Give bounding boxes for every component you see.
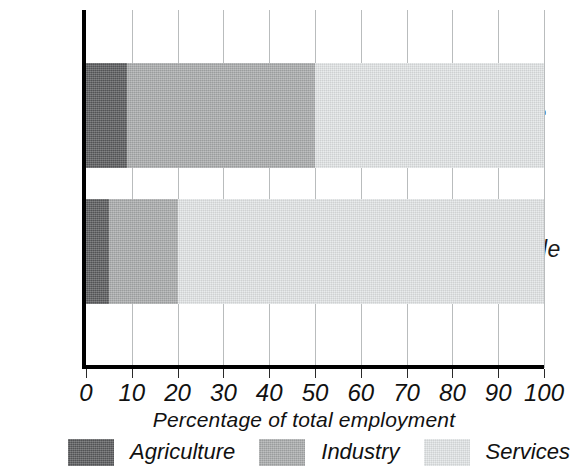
gridline: [544, 10, 545, 368]
legend-label: Services: [486, 439, 570, 465]
legend-label: Agriculture: [130, 439, 235, 465]
legend-swatch-services: [424, 439, 470, 466]
x-axis-tickmark: [498, 369, 499, 378]
x-axis-line: [82, 365, 544, 369]
y-axis-line: [82, 10, 86, 368]
legend-item: Agriculture: [68, 439, 235, 466]
x-axis-tickmark: [269, 369, 270, 378]
legend-swatch-industry: [259, 439, 305, 466]
legend-item: Industry: [259, 439, 399, 466]
bar-segment-services: [178, 199, 544, 304]
x-axis-tickmark: [315, 369, 316, 378]
bar-segment-services: [315, 63, 544, 168]
x-axis-tickmark: [452, 369, 453, 378]
x-axis-title: Percentage of total employment: [0, 408, 560, 432]
legend-item: Services: [424, 439, 570, 466]
x-axis-tickmark: [223, 369, 224, 378]
plot-area: [86, 10, 544, 368]
legend-swatch-agriculture: [68, 439, 114, 466]
bar-segment-industry: [109, 199, 178, 304]
x-axis-tickmark: [544, 369, 545, 378]
bar-segment-industry: [127, 63, 315, 168]
chart-legend: AgricultureIndustryServices: [0, 436, 560, 468]
x-axis-tickmark: [407, 369, 408, 378]
x-axis-tickmark: [361, 369, 362, 378]
legend-label: Industry: [321, 439, 399, 465]
x-axis-tickmark: [178, 369, 179, 378]
x-axis-tickmark: [132, 369, 133, 378]
bar-segment-agriculture: [86, 199, 109, 304]
bar-segment-agriculture: [86, 63, 127, 168]
x-axis-tickmark: [86, 369, 87, 378]
x-axis-tick-label: 100: [514, 379, 574, 407]
